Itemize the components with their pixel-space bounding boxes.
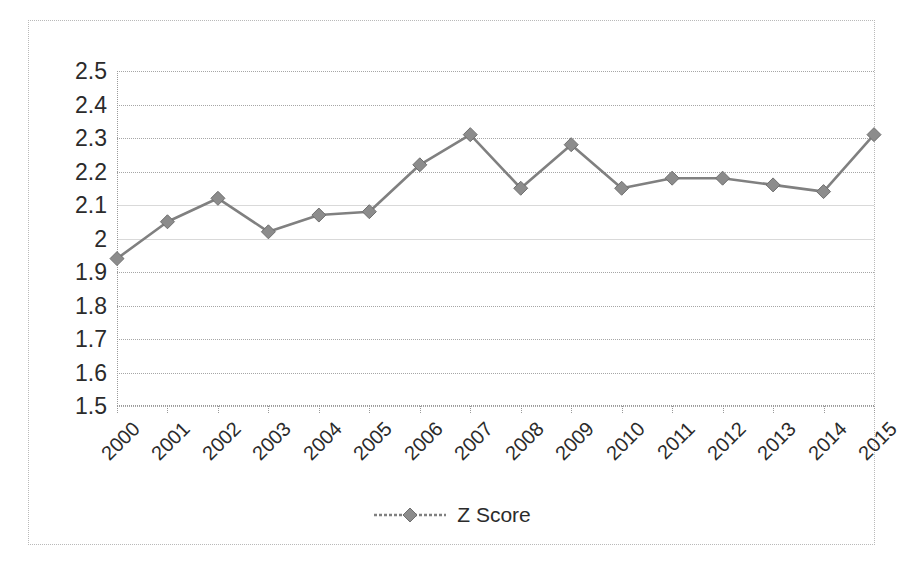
y-axis-tick-label: 1.5 xyxy=(75,395,107,418)
x-axis-tick-label: 2013 xyxy=(754,418,800,464)
legend-label-z-score: Z Score xyxy=(457,504,531,525)
x-axis-tick-label: 2001 xyxy=(148,418,194,464)
x-axis-tick-label: 2000 xyxy=(98,418,144,464)
x-axis-tick-label: 2014 xyxy=(804,418,850,464)
chart-frame: 2.52.42.32.22.121.91.81.71.61.5 20002001… xyxy=(28,20,875,545)
gridline xyxy=(117,406,874,407)
x-axis-tick-label: 2006 xyxy=(400,418,446,464)
legend-marker-icon xyxy=(372,506,448,524)
x-axis-tick xyxy=(319,406,320,413)
x-axis-tick xyxy=(622,406,623,413)
x-axis-tick xyxy=(874,406,875,413)
x-axis-tick xyxy=(672,406,673,413)
y-axis-tick-label: 2.3 xyxy=(75,127,107,150)
data-point-marker xyxy=(312,208,326,222)
y-axis-tick-label: 2 xyxy=(94,227,107,250)
plot-area: 2.52.42.32.22.121.91.81.71.61.5 20002001… xyxy=(117,71,874,406)
x-axis-tick xyxy=(470,406,471,413)
x-axis-tick-label: 2015 xyxy=(855,418,901,464)
x-axis-tick-label: 2007 xyxy=(451,418,497,464)
x-axis-tick xyxy=(218,406,219,413)
x-axis-tick-label: 2002 xyxy=(198,418,244,464)
x-axis-tick-label: 2005 xyxy=(350,418,396,464)
x-axis-tick xyxy=(117,406,118,413)
x-axis-tick xyxy=(268,406,269,413)
y-axis-tick-label: 1.8 xyxy=(75,294,107,317)
x-axis-tick xyxy=(723,406,724,413)
data-point-marker xyxy=(716,171,730,185)
data-point-marker xyxy=(766,178,780,192)
data-point-marker xyxy=(665,171,679,185)
x-axis-tick-label: 2010 xyxy=(602,418,648,464)
x-axis-tick xyxy=(167,406,168,413)
x-axis-tick xyxy=(773,406,774,413)
x-axis-tick xyxy=(521,406,522,413)
series-plot xyxy=(117,71,874,406)
data-point-marker xyxy=(211,191,225,205)
chart-legend: Z Score xyxy=(29,504,874,525)
x-axis-tick xyxy=(369,406,370,413)
y-axis-tick-label: 2.4 xyxy=(75,93,107,116)
x-axis-tick-label: 2004 xyxy=(299,418,345,464)
x-axis-tick-label: 2009 xyxy=(552,418,598,464)
x-axis-tick-label: 2011 xyxy=(654,418,699,463)
y-axis-tick-label: 1.6 xyxy=(75,361,107,384)
series-line-z-score xyxy=(117,135,874,259)
y-axis-tick-label: 2.2 xyxy=(75,160,107,183)
y-axis-tick-label: 2.5 xyxy=(75,60,107,83)
y-axis-tick-label: 1.7 xyxy=(75,328,107,351)
x-axis-tick xyxy=(824,406,825,413)
y-axis-tick-label: 1.9 xyxy=(75,261,107,284)
x-axis-tick xyxy=(420,406,421,413)
data-point-marker xyxy=(261,225,275,239)
x-axis-tick-label: 2003 xyxy=(249,418,295,464)
y-axis-tick-label: 2.1 xyxy=(75,194,107,217)
x-axis-tick-label: 2008 xyxy=(501,418,547,464)
x-axis-tick xyxy=(571,406,572,413)
x-axis-tick-label: 2012 xyxy=(703,418,749,464)
